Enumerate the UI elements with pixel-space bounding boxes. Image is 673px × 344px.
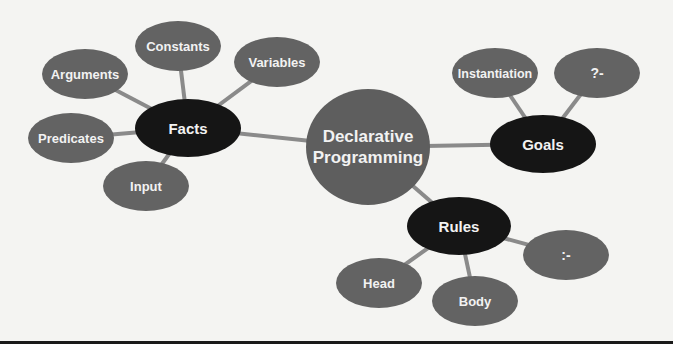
node-variables-label: Variables (248, 55, 305, 70)
node-instantiation: Instantiation (452, 48, 538, 98)
node-predicates-label: Predicates (38, 131, 104, 146)
node-variables: Variables (234, 37, 320, 87)
node-goals-label: Goals (522, 136, 564, 153)
node-center-label-line2: Programming (313, 148, 424, 167)
node-facts: Facts (135, 99, 241, 157)
node-query-operator-label: ?- (590, 65, 604, 81)
node-query-operator: ?- (554, 48, 640, 98)
node-facts-label: Facts (168, 120, 207, 137)
node-declarative-programming: Declarative Programming (306, 89, 430, 205)
node-arguments-label: Arguments (51, 67, 120, 82)
mind-map-diagram: Constants Arguments Variables Predicates… (0, 0, 673, 344)
node-constants: Constants (135, 21, 221, 71)
node-instantiation-label: Instantiation (458, 67, 532, 81)
node-body-label: Body (459, 294, 492, 309)
node-arguments: Arguments (42, 49, 128, 99)
node-rules-label: Rules (439, 218, 480, 235)
node-predicates: Predicates (28, 113, 114, 163)
node-neck-operator-label: :- (561, 247, 571, 263)
diagram-svg: Constants Arguments Variables Predicates… (0, 0, 673, 344)
node-input: Input (103, 161, 189, 211)
node-rules: Rules (407, 197, 511, 255)
node-head-label: Head (363, 276, 395, 291)
node-constants-label: Constants (146, 39, 210, 54)
node-input-label: Input (130, 179, 162, 194)
node-body: Body (432, 276, 518, 326)
node-neck-operator: :- (523, 230, 609, 280)
node-goals: Goals (490, 115, 596, 173)
node-head: Head (336, 258, 422, 308)
node-center-label-line1: Declarative (323, 127, 414, 146)
